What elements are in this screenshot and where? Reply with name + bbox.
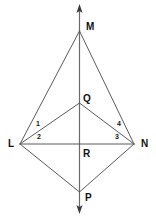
geometry-diagram: M Q L N R P 1 2 3 4 <box>0 0 156 220</box>
segment-ML <box>20 31 80 144</box>
geometry-canvas <box>0 0 156 220</box>
vertex-label-Q: Q <box>83 94 91 104</box>
angle-label-3: 3 <box>115 133 119 140</box>
vertex-label-N: N <box>141 139 148 149</box>
angle-label-1: 1 <box>36 120 40 127</box>
vertex-label-P: P <box>85 193 92 203</box>
angle-label-4: 4 <box>117 120 121 127</box>
segment-QN <box>80 103 135 144</box>
vertex-label-M: M <box>86 22 94 32</box>
segment-LP <box>20 144 80 192</box>
vertex-label-R: R <box>83 149 90 159</box>
vertex-label-L: L <box>8 139 14 149</box>
angle-label-2: 2 <box>37 133 41 140</box>
segment-MN <box>80 31 135 144</box>
segment-QL <box>20 103 80 144</box>
